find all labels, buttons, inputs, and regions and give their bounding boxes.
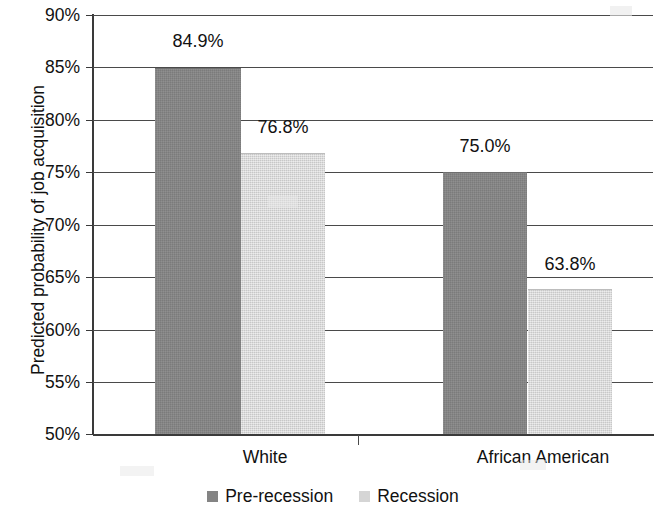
data-label-african-american-recession: 63.8% (519, 254, 621, 275)
y-tick-label: 90% (14, 5, 80, 26)
data-label-white-recession: 76.8% (232, 117, 334, 138)
bar-white-recession[interactable] (241, 153, 325, 434)
y-tick-label: 65% (14, 267, 80, 288)
y-tick-label: 60% (14, 320, 80, 341)
y-tick-label: 50% (14, 424, 80, 445)
bar-african-american-pre-recession[interactable] (443, 172, 527, 434)
legend-label: Recession (377, 486, 459, 507)
legend: Pre-recession Recession (0, 486, 666, 507)
y-tick-label: 85% (14, 57, 80, 78)
x-category-label-african-american: African American (437, 447, 649, 468)
data-label-white-pre-recession: 84.9% (146, 31, 250, 52)
legend-item-pre-recession[interactable]: Pre-recession (207, 486, 333, 507)
bar-african-american-recession[interactable] (528, 289, 612, 434)
legend-label: Pre-recession (225, 486, 333, 507)
bar-white-pre-recession[interactable] (155, 68, 241, 434)
data-label-african-american-pre-recession: 75.0% (434, 136, 536, 157)
legend-item-recession[interactable]: Recession (359, 486, 459, 507)
plot-area (93, 15, 653, 434)
x-axis-line (93, 434, 654, 436)
y-tick-label: 75% (14, 162, 80, 183)
x-category-separator-tick (358, 435, 359, 445)
y-tick-label: 70% (14, 215, 80, 236)
bar-chart: Predicted probability of job acquisition… (0, 0, 666, 514)
gridline (93, 15, 653, 16)
legend-swatch-icon (359, 491, 370, 502)
y-tick-label: 55% (14, 372, 80, 393)
x-category-label-white: White (175, 447, 355, 468)
scan-artifact (120, 466, 154, 476)
y-tick-label: 80% (14, 110, 80, 131)
legend-swatch-icon (207, 491, 218, 502)
